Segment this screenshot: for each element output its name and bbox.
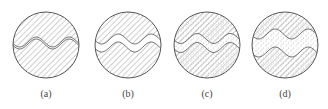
panel-label-a: (a)	[26, 88, 66, 99]
panel-a	[11, 10, 81, 80]
panel-d	[250, 10, 320, 80]
panel-b	[93, 10, 163, 80]
panel-label-d: (d)	[265, 88, 305, 99]
panel-c	[172, 10, 242, 80]
panel-label-c: (c)	[187, 88, 227, 99]
panel-label-b: (b)	[108, 88, 148, 99]
